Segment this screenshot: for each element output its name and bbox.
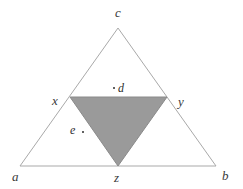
vertex-label-a: a: [12, 170, 19, 183]
vertex-label-z: z: [114, 171, 119, 184]
inner-shaded-triangle-xyz: [70, 97, 167, 166]
point-label-e: e: [70, 124, 75, 136]
point-marker-e: [82, 131, 84, 133]
vertex-label-y: y: [178, 95, 184, 108]
point-marker-d: [113, 87, 115, 89]
vertex-label-x: x: [52, 94, 58, 107]
vertex-label-c: c: [115, 6, 121, 19]
point-label-d: d: [118, 82, 124, 94]
geometry-figure: c a b x y z d e: [0, 0, 243, 189]
vertex-label-b: b: [222, 169, 229, 182]
